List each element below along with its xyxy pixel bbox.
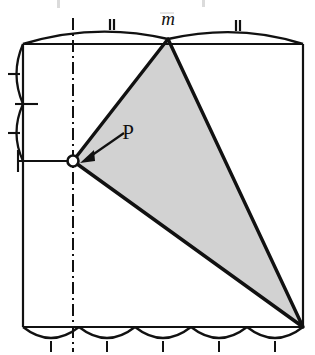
shaded-triangle (73, 39, 303, 327)
technical-drawing-svg: m P (0, 0, 315, 355)
bottom-scallop-5 (247, 327, 303, 338)
bottom-scallop-group (23, 327, 303, 338)
bottom-scallop-ticks (51, 341, 275, 352)
page-bleed-marks (57, 0, 205, 14)
top-scallop-group (23, 32, 303, 44)
point-p-marker (68, 156, 79, 167)
top-scallop-left (23, 32, 168, 44)
bottom-scallop-4 (191, 327, 247, 338)
figure-container: m P (0, 0, 315, 355)
top-scallop-right (168, 32, 303, 44)
apex-label-m: m (161, 8, 175, 29)
point-label-p: P (122, 120, 134, 144)
leader-line-group (18, 150, 67, 172)
bottom-scallop-3 (135, 327, 191, 338)
bottom-scallop-2 (79, 327, 135, 338)
top-scallop-ticks (110, 19, 240, 31)
bottom-scallop-1 (23, 327, 79, 338)
